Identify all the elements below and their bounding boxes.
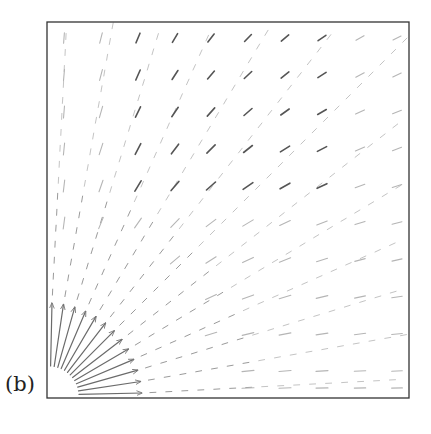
vector-arrow	[283, 324, 289, 326]
vector-arrow	[148, 379, 154, 380]
vector-arrow	[356, 36, 364, 41]
vector-arrow	[78, 370, 138, 387]
vector-arrow	[257, 44, 260, 49]
vector-arrow	[214, 321, 220, 324]
vector-arrow	[112, 23, 113, 29]
vector-arrow	[100, 70, 103, 81]
vector-arrow	[280, 146, 289, 152]
vector-arrow	[79, 382, 141, 391]
vector-arrow	[121, 225, 124, 231]
vector-arrow	[63, 143, 64, 155]
vector-arrow	[98, 102, 99, 108]
vector-arrow	[196, 371, 202, 372]
vector-arrow	[183, 167, 186, 172]
vector-arrow	[207, 145, 215, 153]
vector-arrow	[290, 354, 296, 355]
vector-arrow	[279, 258, 290, 262]
vector-arrow	[254, 232, 259, 236]
vector-arrow	[84, 180, 85, 186]
vector-arrow	[166, 195, 169, 200]
vector-arrow	[176, 264, 180, 268]
vector-arrow	[267, 174, 271, 178]
vector-arrow	[185, 334, 191, 337]
vector-arrow	[392, 334, 403, 335]
vector-arrow	[244, 197, 248, 201]
vector-arrow	[89, 298, 91, 304]
vector-arrow	[258, 302, 264, 304]
vector-arrow	[109, 39, 110, 45]
vector-arrow	[77, 294, 79, 300]
vector-arrow	[280, 221, 291, 226]
vector-arrow	[100, 305, 103, 310]
vector-arrow	[171, 219, 179, 228]
vector-arrow	[355, 296, 366, 298]
vector-arrow	[279, 295, 291, 298]
vector-arrow	[279, 333, 291, 335]
vector-arrow	[95, 117, 96, 123]
vector-arrow	[164, 376, 170, 377]
vector-arrow	[375, 296, 381, 298]
vector-arrow	[239, 148, 243, 153]
vector-arrow	[135, 181, 141, 191]
vector-arrow	[305, 193, 310, 197]
vector-arrow	[242, 370, 254, 371]
vector-arrow	[355, 154, 360, 158]
vector-arrow	[171, 144, 178, 154]
vector-arrow	[380, 134, 385, 138]
vector-arrow	[355, 147, 364, 151]
vector-arrow	[133, 250, 136, 255]
vector-arrow	[356, 73, 364, 77]
vector-arrow	[189, 211, 193, 216]
vector-arrow	[329, 310, 335, 312]
vector-arrow	[150, 262, 154, 267]
vector-arrow	[354, 371, 365, 372]
vector-arrow	[318, 35, 326, 40]
vector-arrow	[302, 282, 308, 284]
vector-arrow	[133, 110, 135, 116]
vector-arrow	[316, 333, 328, 335]
vector-arrow	[110, 312, 114, 317]
vector-arrow	[99, 217, 104, 228]
vector-arrow	[322, 349, 328, 350]
vector-arrow	[179, 224, 183, 229]
vector-arrow	[207, 108, 214, 116]
vector-arrow	[369, 72, 373, 76]
vector-arrow	[317, 147, 326, 152]
vector-arrow	[327, 35, 331, 40]
vector-arrow	[368, 202, 373, 205]
vector-arrow	[204, 272, 209, 276]
vector-arrow	[316, 296, 328, 299]
vector-arrow	[68, 275, 69, 281]
vector-arrow	[243, 257, 254, 262]
vector-arrow	[172, 71, 178, 80]
vector-arrow	[317, 221, 327, 225]
vector-arrow	[96, 233, 98, 239]
vector-arrow	[287, 289, 292, 291]
vector-arrow	[82, 196, 83, 202]
vector-arrow	[390, 291, 396, 293]
vector-arrow	[307, 60, 311, 65]
vector-arrow	[355, 259, 365, 262]
vector-arrow	[354, 333, 365, 334]
vector-arrow	[206, 257, 216, 263]
vector-arrow	[306, 351, 312, 352]
vector-arrow	[176, 317, 181, 320]
vector-arrow	[208, 71, 215, 79]
vector-arrow	[314, 315, 320, 317]
vector-arrow	[172, 107, 178, 116]
vector-arrow	[167, 123, 169, 129]
vector-arrow	[161, 138, 163, 144]
vector-arrow	[108, 255, 111, 261]
vector-arrow	[245, 276, 250, 279]
vector-arrow	[360, 301, 366, 303]
vector-arrow	[156, 347, 162, 349]
vector-arrow	[136, 33, 140, 43]
vector-arrow	[99, 106, 102, 117]
vector-arrow	[99, 180, 103, 191]
vector-arrow	[259, 360, 265, 361]
vector-arrow	[222, 343, 228, 345]
vector-arrow	[199, 242, 203, 246]
vector-arrow	[267, 223, 272, 227]
vector-arrow	[146, 366, 152, 368]
vector-arrow	[149, 334, 154, 337]
